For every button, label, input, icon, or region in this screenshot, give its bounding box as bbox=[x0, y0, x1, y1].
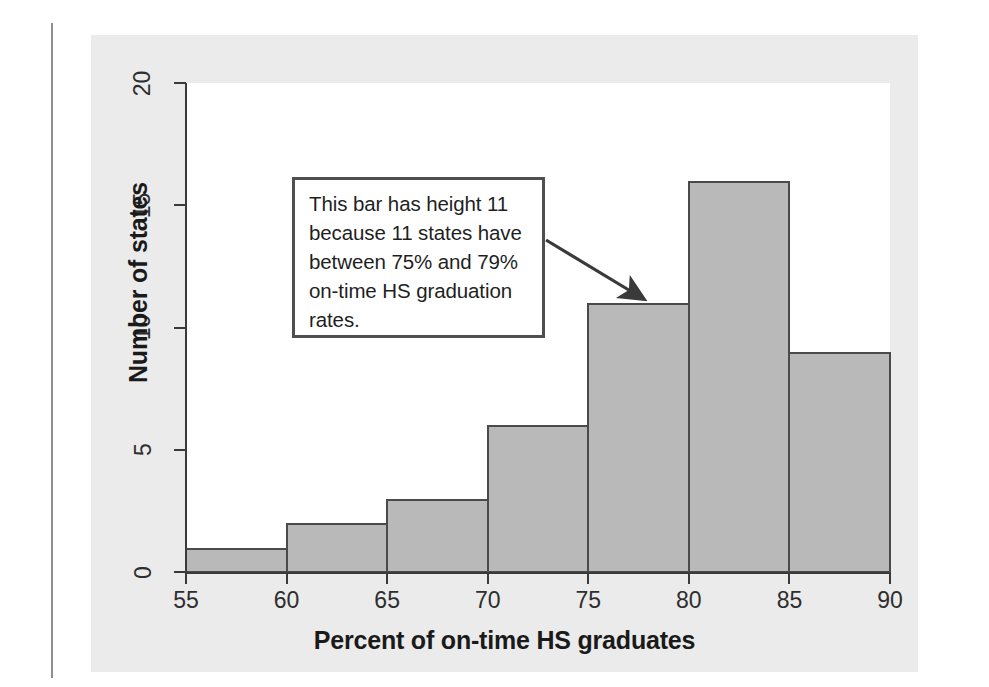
page-margin-rule bbox=[51, 23, 53, 678]
x-axis-tick-label: 60 bbox=[252, 587, 322, 614]
x-axis-tick bbox=[487, 573, 489, 584]
x-axis-tick bbox=[688, 573, 690, 584]
x-axis-tick bbox=[889, 573, 891, 584]
x-axis-tick bbox=[185, 573, 187, 584]
y-axis-tick-label: 0 bbox=[113, 559, 173, 585]
annotation-text: This bar has height 11 because 11 states… bbox=[309, 189, 530, 334]
x-axis-tick-label: 70 bbox=[453, 587, 523, 614]
x-axis-tick-label: 85 bbox=[754, 587, 824, 614]
annotation-callout: This bar has height 11 because 11 states… bbox=[292, 177, 545, 338]
y-axis-title: Number of states bbox=[124, 181, 153, 382]
histogram-bar bbox=[487, 425, 590, 573]
y-axis-line bbox=[185, 83, 187, 574]
x-axis-title: Percent of on-time HS graduates bbox=[91, 626, 918, 655]
y-axis-tick-label: 20 bbox=[113, 70, 173, 96]
x-axis-tick bbox=[587, 573, 589, 584]
histogram-figure: 051015205560657075808590 Number of state… bbox=[91, 35, 918, 672]
histogram-bar bbox=[286, 523, 389, 573]
x-axis-tick bbox=[386, 573, 388, 584]
x-axis-tick-label: 55 bbox=[151, 587, 221, 614]
y-axis-tick bbox=[174, 327, 186, 329]
x-axis-tick bbox=[286, 573, 288, 584]
x-axis-tick-label: 75 bbox=[553, 587, 623, 614]
histogram-bar bbox=[788, 352, 891, 573]
y-axis-tick bbox=[174, 204, 186, 206]
y-axis-tick-label: 5 bbox=[113, 437, 173, 463]
histogram-bar bbox=[386, 499, 489, 573]
histogram-bar bbox=[587, 303, 690, 573]
x-axis-tick-label: 90 bbox=[855, 587, 925, 614]
y-axis-tick bbox=[174, 449, 186, 451]
x-axis-line bbox=[185, 572, 891, 574]
histogram-bar bbox=[688, 181, 791, 573]
x-axis-tick-label: 80 bbox=[654, 587, 724, 614]
x-axis-tick-label: 65 bbox=[352, 587, 422, 614]
y-axis-title-wrapper: Number of states bbox=[29, 267, 249, 297]
histogram-bar bbox=[185, 548, 288, 573]
x-axis-tick bbox=[788, 573, 790, 584]
y-axis-tick bbox=[174, 82, 186, 84]
page-canvas: 051015205560657075808590 Number of state… bbox=[0, 0, 989, 687]
